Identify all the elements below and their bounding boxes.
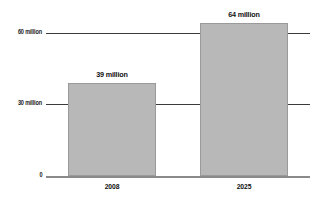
y-axis-label-60-wrap: 60 million (0, 28, 42, 38)
bar-2025[interactable] (200, 23, 288, 176)
x-axis-baseline (46, 176, 310, 178)
y-axis-label-30-wrap: 30 million (0, 99, 42, 109)
y-axis-label-0-wrap: 0 (0, 171, 42, 181)
bar-chart: 60 million 30 million 0 39 million 64 mi… (0, 0, 322, 204)
bar-2008[interactable] (68, 83, 156, 176)
bar-value-label-2025: 64 million (204, 10, 283, 19)
x-axis-label-2025: 2025 (204, 182, 283, 191)
y-axis-label-0: 0 (39, 171, 42, 178)
x-axis-label-2008: 2008 (72, 182, 151, 191)
y-axis-label-60: 60 million (18, 28, 42, 35)
bar-value-label-2008: 39 million (72, 70, 151, 79)
y-axis-label-30: 30 million (18, 99, 42, 106)
